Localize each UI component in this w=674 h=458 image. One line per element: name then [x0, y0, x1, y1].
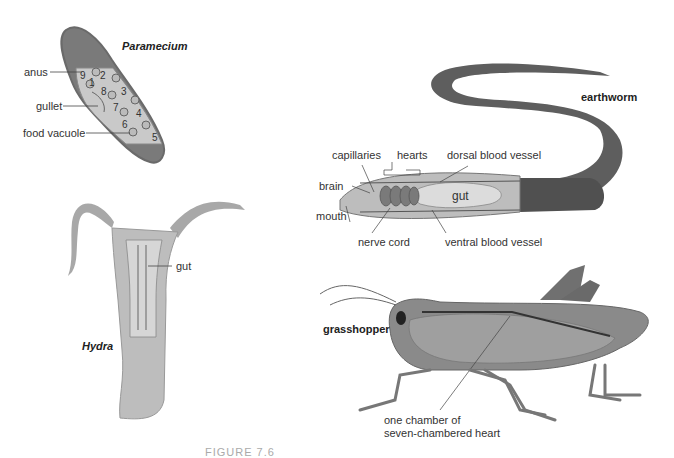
label-heart-line1: one chamber of [384, 414, 460, 426]
label-gullet: gullet [36, 100, 62, 112]
grasshopper-illustration [320, 265, 648, 420]
label-hearts: hearts [397, 149, 428, 161]
label-anus: anus [24, 66, 48, 78]
vacuole-number-4: 4 [136, 108, 142, 119]
label-nerve-cord: nerve cord [358, 236, 410, 248]
label-capillaries: capillaries [332, 149, 381, 161]
vacuole-number-1: 1 [89, 77, 95, 88]
grasshopper-title: grasshopper [323, 323, 390, 335]
label-mouth: mouth [316, 210, 347, 222]
label-food-vacuole: food vacuole [23, 127, 85, 139]
label-earthworm-gut: gut [452, 190, 469, 202]
hydra-illustration [68, 202, 245, 419]
figure-caption: FIGURE 7.6 [205, 446, 275, 458]
paramecium-title: Paramecium [122, 40, 187, 52]
label-heart-line2: seven-chambered heart [384, 427, 500, 439]
vacuole-number-5: 5 [152, 132, 158, 143]
label-dorsal-blood-vessel: dorsal blood vessel [447, 149, 541, 161]
vacuole-number-7: 7 [113, 102, 119, 113]
label-brain: brain [319, 180, 343, 192]
hydra-title: Hydra [82, 340, 113, 352]
label-hydra-gut: gut [176, 260, 191, 272]
vacuole-number-6: 6 [122, 119, 128, 130]
vacuole-number-3: 3 [121, 86, 127, 97]
earthworm-title: earthworm [581, 91, 637, 103]
vacuole-number-8: 8 [101, 86, 107, 97]
vacuole-number-2: 2 [100, 70, 106, 81]
label-ventral-blood-vessel: ventral blood vessel [445, 236, 542, 248]
